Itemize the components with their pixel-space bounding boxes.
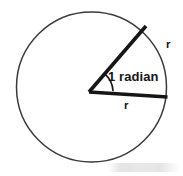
radian-diagram-figure: 1 radian r r xyxy=(0,0,183,176)
radius-upper-label: r xyxy=(166,39,170,51)
angle-label: 1 radian xyxy=(108,70,159,83)
radius-lower-line xyxy=(89,92,168,97)
diagram-canvas xyxy=(0,0,183,176)
radius-lower-label: r xyxy=(124,100,128,112)
